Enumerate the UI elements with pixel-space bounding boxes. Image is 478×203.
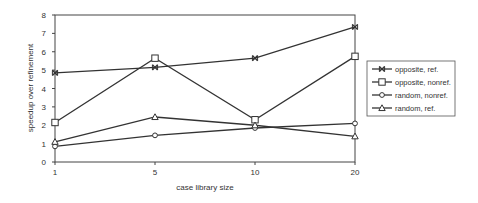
y-tick-label: 8 — [42, 11, 47, 20]
y-axis-title: speedup over refinement — [26, 43, 35, 132]
y-tick-label: 5 — [42, 66, 47, 75]
legend-label: random, nonref. — [395, 91, 448, 100]
series-line — [55, 123, 355, 146]
y-tick-label: 7 — [42, 29, 47, 38]
y-tick-label: 0 — [42, 158, 47, 167]
x-tick-label: 5 — [153, 168, 158, 177]
series-opposite-ref — [52, 24, 357, 75]
x-axis-title: case library size — [176, 183, 234, 192]
y-tick-label: 3 — [42, 103, 47, 112]
y-tick-label: 1 — [42, 140, 47, 149]
x-tick-label: 20 — [351, 168, 360, 177]
y-tick-label: 4 — [42, 85, 47, 94]
legend-label: random, ref. — [395, 104, 435, 113]
legend-item: opposite, nonref. — [372, 78, 451, 87]
circle-marker-icon — [380, 93, 385, 98]
circle-marker-icon — [153, 133, 158, 138]
circle-marker-icon — [353, 121, 358, 126]
x-axis: 151020 — [53, 162, 360, 177]
series-random-nonref — [53, 121, 358, 149]
x-tick-label: 10 — [251, 168, 260, 177]
legend-label: opposite, nonref. — [395, 78, 451, 87]
square-marker-icon — [52, 119, 58, 125]
series-line — [55, 56, 355, 122]
square-marker-icon — [152, 55, 158, 61]
series-opposite-nonref — [52, 53, 358, 126]
square-marker-icon — [352, 53, 358, 59]
series-random-ref — [52, 114, 358, 145]
y-tick-label: 2 — [42, 121, 47, 130]
x-tick-label: 1 — [53, 168, 58, 177]
legend-label: opposite, ref. — [395, 65, 438, 74]
series-line — [55, 117, 355, 142]
y-tick-label: 6 — [42, 48, 47, 57]
series-line — [55, 27, 355, 73]
square-marker-icon — [379, 79, 385, 85]
series-layer — [52, 24, 358, 148]
line-chart: 012345678 151020 speedup over refinement… — [0, 0, 478, 203]
legend: opposite, ref.opposite, nonref.random, n… — [367, 61, 455, 116]
